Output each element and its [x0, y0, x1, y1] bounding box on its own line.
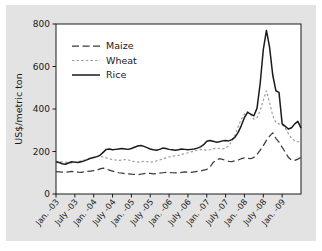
y-axis-ticks: 0200400600800: [33, 19, 56, 199]
legend-label-wheat: Wheat: [106, 55, 137, 66]
y-tick-label: 200: [33, 147, 50, 157]
y-tick-label: 0: [44, 189, 50, 199]
y-tick-label: 800: [33, 19, 50, 29]
line-chart: 0200400600800 Jan. -03July -03Jan. -04Ju…: [0, 0, 322, 251]
plot-area-background: [56, 24, 301, 194]
x-axis-ticks: Jan. -03July -03Jan. -04July -04Jan. -05…: [33, 194, 288, 228]
chart-figure: 0200400600800 Jan. -03July -03Jan. -04Ju…: [0, 0, 322, 251]
legend-label-maize: Maize: [106, 40, 134, 51]
legend-label-rice: Rice: [106, 69, 126, 80]
y-tick-label: 400: [33, 104, 50, 114]
y-axis-title: US$/metric ton: [13, 73, 24, 144]
y-tick-label: 600: [33, 62, 50, 72]
